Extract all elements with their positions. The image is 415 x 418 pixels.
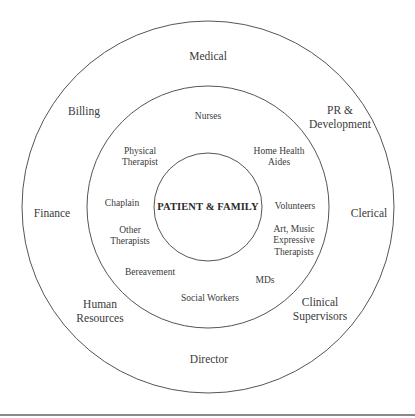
- middle-label-other-therapists: OtherTherapists: [110, 225, 150, 248]
- label-line: Clerical: [351, 207, 387, 221]
- middle-label-social-workers: Social Workers: [181, 293, 239, 304]
- middle-label-physical-therapist: PhysicalTherapist: [122, 146, 158, 169]
- label-line: Other: [110, 225, 150, 236]
- label-line: Resources: [76, 312, 123, 326]
- label-line: Therapists: [273, 247, 315, 258]
- label-line: Therapist: [122, 157, 158, 168]
- label-line: Art, Music: [273, 224, 315, 235]
- label-line: Supervisors: [293, 310, 347, 324]
- outer-label-clerical: Clerical: [351, 207, 387, 221]
- label-line: Human: [76, 298, 123, 312]
- middle-label-mds: MDs: [255, 275, 274, 286]
- label-line: Nurses: [195, 111, 221, 122]
- outer-label-billing: Billing: [68, 105, 100, 119]
- middle-label-chaplain: Chaplain: [105, 198, 139, 209]
- label-line: Billing: [68, 105, 100, 119]
- outer-label-director: Director: [190, 353, 228, 367]
- middle-label-art-music-expressive-therapists: Art, MusicExpressiveTherapists: [273, 224, 315, 258]
- label-line: MDs: [255, 275, 274, 286]
- label-line: Bereavement: [125, 267, 175, 278]
- label-line: Physical: [122, 146, 158, 157]
- label-line: Finance: [34, 207, 70, 221]
- center-label-patient-family: PATIENT & FAMILY: [157, 201, 258, 214]
- outer-label-pr-development: PR &Development: [309, 104, 371, 132]
- label-line: Development: [309, 118, 371, 132]
- label-line: Aides: [254, 157, 305, 168]
- label-line: PR &: [309, 104, 371, 118]
- middle-label-nurses: Nurses: [195, 111, 221, 122]
- label-line: Home Health: [254, 146, 305, 157]
- label-line: Medical: [189, 50, 227, 64]
- label-line: Therapists: [110, 236, 150, 247]
- label-line: Chaplain: [105, 198, 139, 209]
- middle-label-bereavement: Bereavement: [125, 267, 175, 278]
- bottom-divider: [0, 414, 415, 416]
- outer-label-finance: Finance: [34, 207, 70, 221]
- label-line: Social Workers: [181, 293, 239, 304]
- middle-label-volunteers: Volunteers: [275, 201, 315, 212]
- label-line: Expressive: [273, 235, 315, 246]
- outer-label-clinical-supervisors: ClinicalSupervisors: [293, 296, 347, 324]
- middle-label-home-health-aides: Home HealthAides: [254, 146, 305, 169]
- outer-label-human-resources: HumanResources: [76, 298, 123, 326]
- label-line: Volunteers: [275, 201, 315, 212]
- label-line: Director: [190, 353, 228, 367]
- outer-label-medical: Medical: [189, 50, 227, 64]
- label-line: Clinical: [293, 296, 347, 310]
